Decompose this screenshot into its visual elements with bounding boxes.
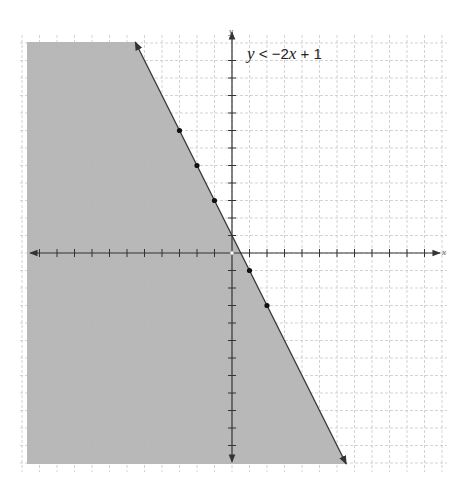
equation-tail: + 1 [296,45,321,62]
data-point [212,198,217,203]
y-axis-label: y [229,26,233,36]
data-point [177,128,182,133]
x-axis-label: x [442,247,446,257]
inequality-label: y < −2x + 1 [247,44,322,64]
equation-operator: < −2 [255,45,289,62]
data-point [247,268,252,273]
data-point [194,163,199,168]
data-point [264,303,269,308]
equation-y: y [247,44,255,63]
test-point-origin [230,251,234,255]
inequality-plot [0,0,472,499]
